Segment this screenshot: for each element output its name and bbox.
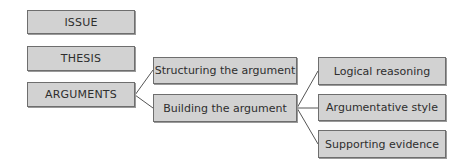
node-evidence-label: Supporting evidence [325,138,439,151]
node-structuring-label: Structuring the argument [155,64,296,77]
node-logical-label: Logical reasoning [334,65,430,78]
node-thesis: THESIS [27,46,135,71]
connector-building-logical [297,71,318,108]
node-issue-label: ISSUE [64,16,97,29]
connector-arguments-building [135,95,153,108]
connector-building-evidence [297,108,318,144]
node-structuring: Structuring the argument [153,57,297,84]
node-arguments: ARGUMENTS [27,82,135,107]
node-logical: Logical reasoning [318,57,446,85]
node-style: Argumentative style [318,94,446,121]
connector-arguments-structuring [135,70,153,95]
node-building: Building the argument [153,94,297,122]
node-style-label: Argumentative style [326,101,438,114]
node-issue: ISSUE [27,10,135,34]
node-thesis-label: THESIS [61,52,101,65]
node-evidence: Supporting evidence [318,130,446,158]
node-building-label: Building the argument [163,102,286,115]
node-arguments-label: ARGUMENTS [45,88,117,101]
